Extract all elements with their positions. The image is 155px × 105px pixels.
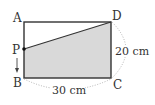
point-p bbox=[22, 47, 26, 51]
label-c: C bbox=[113, 78, 122, 92]
arrow-down-icon bbox=[15, 58, 19, 73]
rectangle-diagram: A D P B C 30 cm 20 cm bbox=[0, 0, 155, 105]
measurement-cd: 20 cm bbox=[115, 45, 150, 58]
label-b: B bbox=[13, 76, 22, 90]
measurement-bc: 30 cm bbox=[52, 84, 87, 97]
shaded-region-pbcd bbox=[24, 22, 111, 78]
label-a: A bbox=[12, 11, 22, 25]
label-d: D bbox=[112, 9, 122, 23]
label-p: P bbox=[12, 43, 20, 57]
